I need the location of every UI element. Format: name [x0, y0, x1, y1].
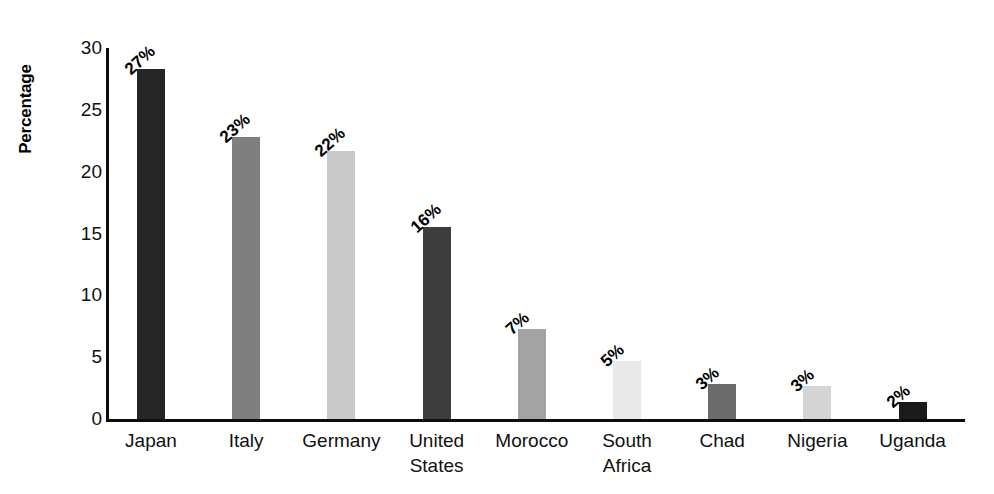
category-label-line2: Africa	[575, 453, 679, 478]
bar	[613, 361, 641, 419]
bar	[423, 227, 451, 419]
y-axis-tick-label: 30	[58, 38, 102, 57]
bar	[232, 137, 260, 419]
bar	[518, 329, 546, 419]
y-axis-tick-label: 25	[58, 100, 102, 119]
category-label-line1: Japan	[125, 430, 177, 451]
y-axis-tick-label: 15	[58, 224, 102, 243]
category-label-line1: Morocco	[495, 430, 568, 451]
category-label-line1: South	[602, 430, 652, 451]
x-axis-category-label: Chad	[670, 428, 774, 453]
bar	[803, 386, 831, 419]
x-axis-category-labels: JapanItalyGermanyUnitedStatesMoroccoSout…	[109, 428, 965, 490]
y-axis-tick-label: 10	[58, 285, 102, 304]
x-axis-category-label: Uganda	[861, 428, 965, 453]
category-label-line1: Uganda	[879, 430, 946, 451]
y-axis-tick-label: 0	[58, 409, 102, 428]
y-axis-tick-label: 5	[58, 347, 102, 366]
x-axis-category-label: Nigeria	[765, 428, 869, 453]
x-axis-category-label: Japan	[99, 428, 203, 453]
x-axis-category-label: Germany	[289, 428, 393, 453]
category-label-line1: Italy	[229, 430, 264, 451]
bar	[708, 384, 736, 419]
y-axis-title: Percentage	[16, 24, 40, 194]
bar	[137, 69, 165, 419]
x-axis-line	[106, 419, 965, 422]
category-label-line1: Germany	[302, 430, 380, 451]
x-axis-category-label: Morocco	[480, 428, 584, 453]
bar-chart: Percentage 302520151050 27%23%22%16%7%5%…	[0, 0, 994, 494]
category-label-line1: United	[409, 430, 464, 451]
y-axis-tick-labels: 302520151050	[48, 0, 102, 494]
x-axis-category-label: Italy	[194, 428, 298, 453]
x-axis-category-label: UnitedStates	[385, 428, 489, 478]
y-axis-tick-label: 20	[58, 162, 102, 181]
category-label-line2: States	[385, 453, 489, 478]
category-label-line1: Chad	[699, 430, 744, 451]
x-axis-category-label: SouthAfrica	[575, 428, 679, 478]
category-label-line1: Nigeria	[787, 430, 847, 451]
bar	[327, 151, 355, 419]
plot-area: 27%23%22%16%7%5%3%3%2%	[109, 48, 965, 419]
